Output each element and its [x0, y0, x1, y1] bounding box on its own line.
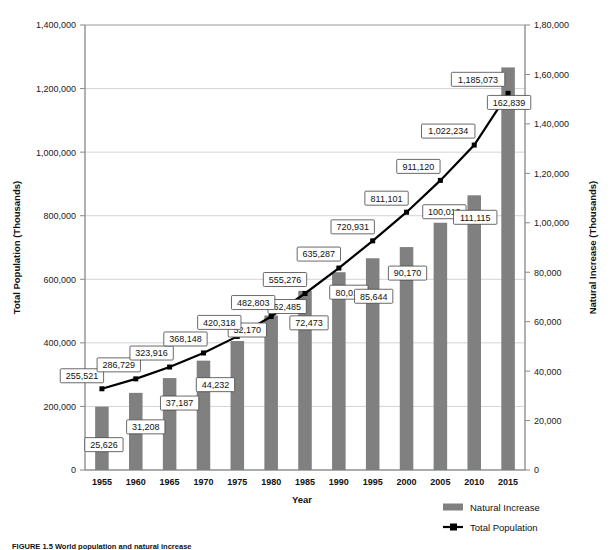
- line-label-1985: 555,276: [269, 275, 302, 285]
- line-marker-1990[interactable]: [336, 266, 341, 271]
- line-label-2010: 1,022,234: [428, 126, 468, 136]
- line-label-2000: 811,101: [371, 194, 403, 204]
- figure-container: 0200,000400,000600,000800,0001,000,0001,…: [0, 0, 611, 550]
- line-label-1960: 286,729: [102, 360, 135, 370]
- y2-axis-tick-label: 60,000: [534, 317, 562, 327]
- x-axis-tick-label-2015: 2015: [498, 477, 518, 487]
- x-axis-tick-label-1965: 1965: [160, 477, 180, 487]
- bar-2000[interactable]: [400, 247, 414, 470]
- line-marker-2010[interactable]: [472, 143, 477, 148]
- legend-marker-total-population: [450, 524, 457, 531]
- y-axis-tick-label: 1,000,000: [36, 148, 76, 158]
- x-axis-tick-label-2010: 2010: [464, 477, 484, 487]
- y2-axis-tick-label: 20,000: [534, 416, 562, 426]
- bar-label-1970: 44,232: [202, 380, 230, 390]
- line-label-1975: 420,318: [203, 318, 236, 328]
- x-axis-tick-label-1960: 1960: [126, 477, 146, 487]
- y2-axis-tick-label: 1,40,000: [534, 119, 569, 129]
- bar-label-2015: 162,839: [493, 98, 526, 108]
- y-axis-tick-label: 1,400,000: [36, 20, 76, 30]
- y2-axis-tick-label: 1,80,000: [534, 20, 569, 30]
- line-label-1995: 720,931: [336, 222, 369, 232]
- y2-axis-tick-label: 1,20,000: [534, 169, 569, 179]
- y-axis-tick-label: 600,000: [43, 275, 76, 285]
- x-axis-tick-label-1985: 1985: [295, 477, 315, 487]
- line-label-1990: 635,287: [303, 249, 336, 259]
- line-label-2015: 1,185,073: [458, 75, 498, 85]
- figure-caption: FIGURE 1.5 World population and natural …: [12, 542, 191, 550]
- bar-2010[interactable]: [467, 195, 481, 470]
- bar-label-1960: 31,208: [132, 422, 160, 432]
- y-axis-title: Total Population (Thousands): [11, 181, 22, 314]
- bar-label-1985: 72,473: [295, 318, 323, 328]
- x-axis-tick-label-1990: 1990: [329, 477, 349, 487]
- bar-1990[interactable]: [332, 272, 346, 470]
- y2-axis-tick-label: 0: [534, 465, 539, 475]
- bar-label-2000: 90,170: [394, 268, 422, 278]
- y2-axis-tick-label: 40,000: [534, 367, 562, 377]
- y2-axis-tick-label: 1,00,000: [534, 218, 569, 228]
- bar-2015[interactable]: [501, 67, 515, 470]
- bar-1970[interactable]: [197, 361, 211, 470]
- y2-axis-tick-label: 80,000: [534, 268, 562, 278]
- x-axis-tick-label-1975: 1975: [227, 477, 247, 487]
- bar-label-1995: 85,644: [360, 292, 388, 302]
- line-marker-1955[interactable]: [99, 386, 104, 391]
- y-axis-tick-label: 0: [71, 465, 76, 475]
- bar-2005[interactable]: [434, 223, 448, 470]
- x-axis-tick-label-1970: 1970: [193, 477, 213, 487]
- population-chart: 0200,000400,000600,000800,0001,000,0001,…: [0, 0, 611, 550]
- line-label-1965: 323,916: [135, 348, 168, 358]
- bar-label-2010: 111,115: [460, 213, 491, 223]
- line-label-1955: 255,521: [66, 371, 99, 381]
- legend-swatch-natural-increase: [443, 504, 463, 511]
- x-axis-tick-label-2000: 2000: [397, 477, 417, 487]
- y-axis-tick-label: 200,000: [43, 402, 76, 412]
- x-axis-tick-label-1980: 1980: [261, 477, 281, 487]
- line-marker-2000[interactable]: [404, 210, 409, 215]
- line-label-2005: 911,120: [402, 162, 434, 172]
- line-label-1970: 368,148: [169, 334, 202, 344]
- legend-label-total-population: Total Population: [470, 522, 538, 533]
- line-marker-1980[interactable]: [269, 314, 274, 319]
- bar-1975[interactable]: [231, 341, 245, 470]
- line-marker-1985[interactable]: [303, 291, 308, 296]
- y-axis-tick-label: 800,000: [43, 211, 76, 221]
- y2-axis-title: Natural Increase (Thousands): [587, 181, 598, 315]
- x-axis-tick-label-2005: 2005: [430, 477, 450, 487]
- y-axis-tick-label: 400,000: [43, 338, 76, 348]
- y2-axis-tick-label: 1,60,000: [534, 70, 569, 80]
- line-marker-1965[interactable]: [167, 365, 172, 370]
- line-marker-2005[interactable]: [438, 178, 443, 183]
- x-axis-tick-label-1995: 1995: [363, 477, 383, 487]
- bar-label-1965: 37,187: [166, 398, 194, 408]
- line-marker-1960[interactable]: [133, 376, 138, 381]
- x-axis-title: Year: [292, 494, 312, 505]
- legend-label-natural-increase: Natural Increase: [470, 502, 540, 513]
- bar-label-1955: 25,626: [90, 440, 118, 450]
- line-marker-1995[interactable]: [370, 238, 375, 243]
- bar-1980[interactable]: [264, 316, 278, 470]
- x-axis-tick-label-1955: 1955: [92, 477, 112, 487]
- line-label-1980: 482,803: [237, 298, 270, 308]
- bar-label-1980: 62,485: [273, 302, 301, 312]
- line-marker-1970[interactable]: [201, 350, 206, 355]
- y-axis-tick-label: 1,200,000: [36, 84, 76, 94]
